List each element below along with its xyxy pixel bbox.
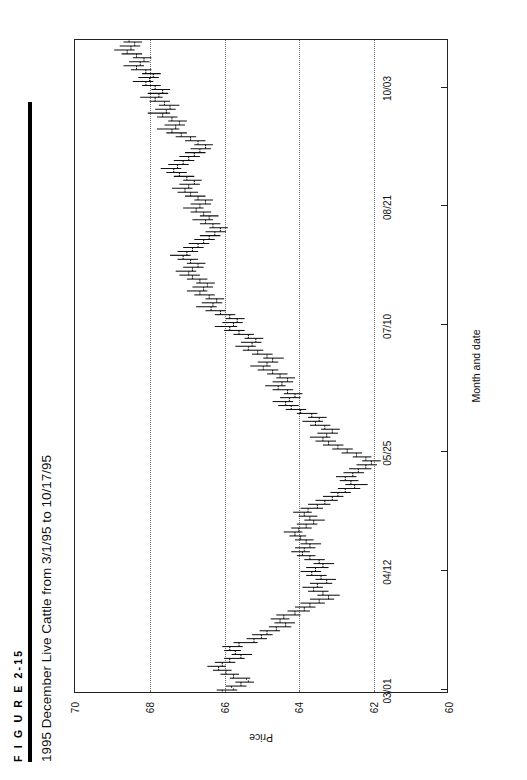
y-axis-title: Price <box>74 726 448 750</box>
y-axis-tick-label: 68 <box>144 702 155 713</box>
x-axis-tick-label: 08/21 <box>382 195 393 220</box>
x-axis-tick <box>441 570 448 571</box>
x-axis-tick <box>441 689 448 690</box>
figure-number: F I G U R E 2-15 <box>12 62 24 762</box>
y-axis-title-text: Price <box>249 732 273 744</box>
x-axis-title: Month and date <box>470 39 482 693</box>
y-axis-tick-label: 66 <box>219 702 230 713</box>
x-axis-tick <box>441 87 448 88</box>
figure-header: F I G U R E 2-15 1995 December Live Catt… <box>12 62 54 762</box>
y-axis-tick-label: 64 <box>294 702 305 713</box>
y-axis-tick-label: 70 <box>70 702 81 713</box>
x-axis-tick <box>441 324 448 325</box>
y-axis-tick-label: 60 <box>444 702 455 713</box>
x-axis-tick-label: 04/12 <box>382 560 393 585</box>
x-axis-tick <box>441 205 448 206</box>
y-axis-tick-label: 62 <box>369 702 380 713</box>
figure-rule-divider <box>28 102 32 762</box>
rotated-figure-container: F I G U R E 2-15 1995 December Live Catt… <box>0 0 527 780</box>
figure-title: 1995 December Live Cattle from 3/1/95 to… <box>39 62 54 762</box>
plot-area: 706866646260 <box>74 39 448 693</box>
ohlc-bar-series <box>75 40 448 692</box>
x-axis-tick-label: 10/03 <box>382 76 393 101</box>
x-axis-tick <box>441 451 448 452</box>
x-axis-tick-label: 07/10 <box>382 314 393 339</box>
x-axis-tick-label: 03/01 <box>382 679 393 704</box>
x-axis-tick-label: 05/25 <box>382 441 393 466</box>
